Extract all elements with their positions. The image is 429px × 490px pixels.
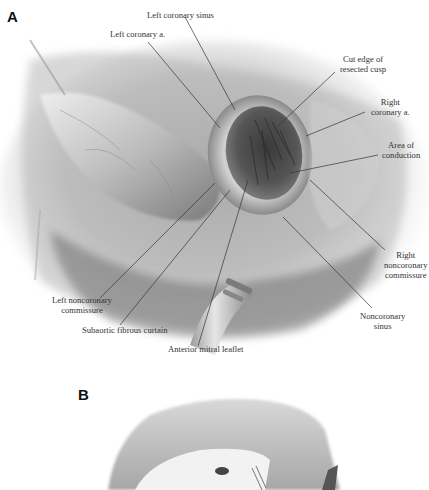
- label-cut-edge-resected-cusp: Cut edge of resected cusp: [340, 54, 386, 74]
- label-line: resected cusp: [340, 64, 386, 74]
- label-anterior-mitral-leaflet: Anterior mitral leaflet: [168, 344, 243, 354]
- label-line: conduction: [382, 150, 420, 160]
- label-line: Right: [384, 250, 427, 260]
- label-line: Area of: [382, 140, 420, 150]
- panel-a-letter: A: [7, 8, 18, 25]
- label-right-noncoronary-commissure: Right noncoronary commissure: [384, 250, 427, 280]
- label-line: sinus: [360, 321, 405, 331]
- label-line: Cut edge of: [340, 54, 386, 64]
- label-area-of-conduction: Area of conduction: [382, 140, 420, 160]
- label-subaortic-fibrous-curtain: Subaortic fibrous curtain: [82, 325, 167, 335]
- label-line: commissure: [384, 270, 427, 280]
- panel-b-letter: B: [78, 386, 89, 403]
- label-noncoronary-sinus: Noncoronary sinus: [360, 311, 405, 331]
- label-right-coronary-artery: Right coronary a.: [371, 97, 410, 117]
- label-line: Right: [371, 97, 410, 107]
- anatomical-figure: A B Left coronary sinus Left coronary a.…: [0, 0, 429, 490]
- label-line: coronary a.: [371, 107, 410, 117]
- label-left-coronary-sinus: Left coronary sinus: [147, 10, 214, 20]
- label-line: commissure: [52, 305, 112, 315]
- label-line: Noncoronary: [360, 311, 405, 321]
- label-left-coronary-artery: Left coronary a.: [110, 29, 165, 39]
- label-line: Left noncoronary: [52, 295, 112, 305]
- label-left-noncoronary-commissure: Left noncoronary commissure: [52, 295, 112, 315]
- label-line: noncoronary: [384, 260, 427, 270]
